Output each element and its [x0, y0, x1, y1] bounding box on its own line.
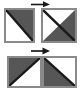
arrow-right-icon-middle	[31, 46, 50, 55]
tile-diagram	[0, 0, 81, 88]
half-square-triangle-shaded-upper-left	[9, 58, 40, 86]
half-square-triangle-shaded-lower-right	[43, 10, 75, 41]
half-square-triangle-shaded-lower-left	[44, 58, 75, 86]
arrow-right-icon-top	[31, 0, 50, 7]
tile-top-left	[4, 8, 35, 43]
tile-bottom-left	[7, 56, 42, 88]
tile-top-right	[41, 8, 77, 43]
tile-row-bottom	[7, 56, 77, 88]
half-square-triangle-shaded-upper-right	[6, 10, 33, 41]
tile-bottom-right	[42, 56, 77, 88]
